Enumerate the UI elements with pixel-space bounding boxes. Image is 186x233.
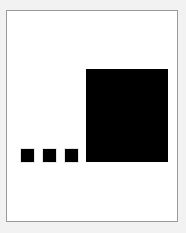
small-square-1 xyxy=(21,149,34,162)
small-square-2 xyxy=(43,149,56,162)
large-square xyxy=(86,69,168,162)
figure-panel xyxy=(6,10,178,222)
figure-canvas xyxy=(0,0,186,233)
small-square-3 xyxy=(65,149,78,162)
